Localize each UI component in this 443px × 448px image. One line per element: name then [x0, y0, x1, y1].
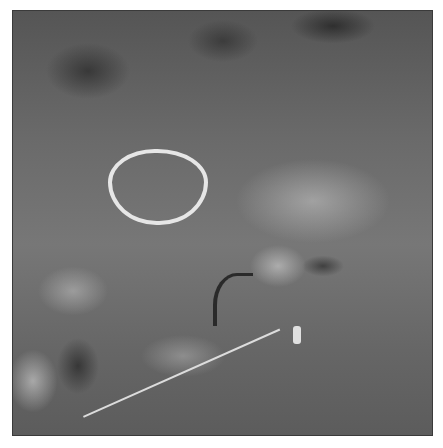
rock-surface-photo: [12, 10, 433, 436]
chalk-ring-outline: [108, 149, 208, 225]
dark-crack: [213, 273, 253, 326]
white-diagonal-line: [83, 329, 280, 418]
white-mark: [293, 326, 301, 344]
